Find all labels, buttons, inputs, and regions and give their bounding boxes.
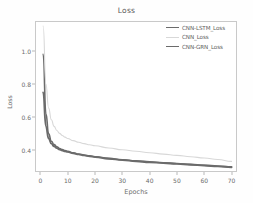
legend-label: CNN-GRN_Loss	[182, 44, 223, 50]
x-tick-mark	[176, 172, 177, 175]
chart-title: Loss	[0, 6, 253, 15]
figure-canvas: Loss Loss 0.40.60.81.0 010203040506070 E…	[0, 0, 253, 203]
chart-legend: CNN-LSTM_LossCNN_LossCNN-GRN_Loss	[166, 24, 225, 50]
x-axis-label: Epochs	[35, 188, 237, 196]
legend-label: CNN-LSTM_Loss	[182, 25, 225, 31]
x-tick-label: 40	[146, 177, 154, 184]
x-tick-label: 70	[228, 177, 236, 184]
legend-line-icon	[166, 46, 179, 47]
x-tick-label: 0	[39, 177, 43, 184]
x-tick-mark	[122, 172, 123, 175]
x-tick-mark	[40, 172, 41, 175]
y-axis-ticks: 0.40.60.81.0	[0, 21, 35, 172]
y-tick-label: 0.4	[21, 147, 31, 154]
x-axis-ticks: 010203040506070	[35, 172, 237, 186]
x-tick-label: 10	[64, 177, 72, 184]
series-line	[43, 54, 231, 167]
x-tick-label: 60	[200, 177, 208, 184]
legend-line-icon	[166, 27, 179, 28]
x-tick-mark	[231, 172, 232, 175]
y-tick-label: 1.0	[21, 47, 31, 54]
x-tick-label: 20	[91, 177, 99, 184]
y-tick-label: 0.6	[21, 114, 31, 121]
legend-item: CNN-LSTM_Loss	[166, 24, 225, 31]
legend-label: CNN_Loss	[182, 34, 209, 40]
y-tick-label: 0.8	[21, 81, 31, 88]
x-tick-label: 50	[173, 177, 181, 184]
x-tick-mark	[95, 172, 96, 175]
x-tick-mark	[149, 172, 150, 175]
x-tick-mark	[67, 172, 68, 175]
x-tick-label: 30	[119, 177, 127, 184]
x-tick-mark	[204, 172, 205, 175]
legend-item: CNN_Loss	[166, 34, 225, 41]
legend-item: CNN-GRN_Loss	[166, 43, 225, 50]
series-line	[43, 92, 231, 167]
legend-line-icon	[166, 37, 179, 38]
